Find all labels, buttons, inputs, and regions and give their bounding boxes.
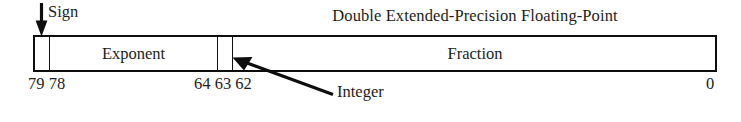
- bit-labels-middle: 64 63 62: [194, 74, 252, 94]
- field-label-exponent: Exponent: [50, 43, 217, 65]
- bit-labels-left: 79 78: [28, 74, 65, 94]
- sign-callout-label: Sign: [48, 2, 78, 22]
- floating-point-format-diagram: Double Extended-Precision Floating-Point…: [0, 0, 741, 122]
- divider-exponent-integer: [217, 35, 218, 72]
- down-arrow-icon: [36, 3, 48, 37]
- diagram-title: Double Extended-Precision Floating-Point: [295, 6, 655, 26]
- bit-labels-right: 0: [706, 74, 714, 94]
- integer-callout-label: Integer: [337, 82, 384, 102]
- field-label-fraction: Fraction: [233, 43, 717, 65]
